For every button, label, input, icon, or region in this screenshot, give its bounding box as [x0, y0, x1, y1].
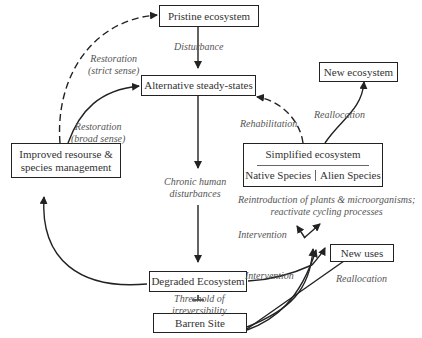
node-new-uses: New uses: [330, 244, 394, 262]
node-label: Alternative steady-states: [144, 79, 252, 92]
label-chronic-disturbances: Chronic human disturbances: [164, 176, 226, 200]
label-intervention-upper: Intervention: [238, 229, 287, 241]
node-simplified-ecosystem: Simplified ecosystem Native Species Alie…: [243, 143, 383, 187]
node-new-ecosystem: New ecosystem: [319, 62, 398, 82]
label-threshold-irreversibility: Threshold of irreversibility: [172, 293, 227, 317]
label-rehabilitation: Rehabilitation: [240, 118, 297, 130]
node-degraded-ecosystem: Degraded Ecosystem: [149, 271, 247, 292]
node-label: Pristine ecosystem: [168, 10, 250, 23]
node-label-line1: Improved resourse &: [19, 148, 112, 161]
native-species-label: Native Species: [245, 169, 311, 182]
node-label-line2: species management: [21, 161, 112, 174]
node-label: Simplified ecosystem: [265, 148, 360, 161]
label-reallocation-bottom: Reallocation: [336, 273, 387, 285]
node-label: New ecosystem: [324, 66, 393, 79]
node-improved-management: Improved resourse & species management: [11, 143, 121, 178]
separator: [315, 170, 316, 181]
label-reallocation-top: Reallocation: [314, 109, 365, 121]
label-intervention-lower: Intervention: [245, 270, 294, 282]
divider: [257, 165, 369, 166]
node-pristine-ecosystem: Pristine ecosystem: [159, 5, 259, 27]
node-alternative-steady-states: Alternative steady-states: [141, 75, 256, 96]
node-label: New uses: [341, 247, 383, 260]
label-restoration-broad: Restoration (broad sense): [71, 121, 125, 145]
alien-species-label: Alien Species: [320, 169, 381, 182]
label-disturbance: Disturbance: [174, 41, 223, 53]
label-restoration-strict: Restoration (strict sense): [88, 53, 139, 77]
node-label: Degraded Ecosystem: [151, 275, 244, 288]
node-label: Barren Site: [175, 317, 225, 330]
label-reintroduction: Reintroduction of plants & microorganism…: [238, 194, 415, 218]
